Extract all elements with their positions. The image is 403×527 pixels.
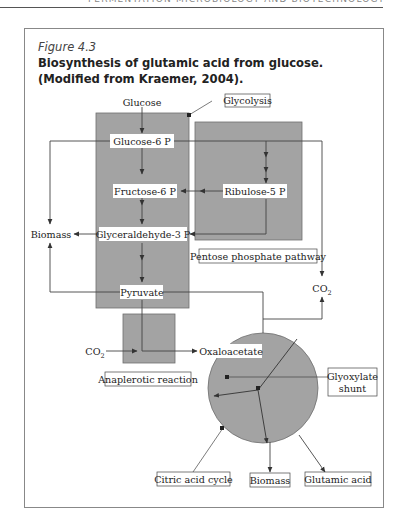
- node-oxaloacetate: Oxaloacetate: [199, 346, 263, 357]
- label-shunt: shunt: [339, 383, 366, 394]
- label-citric-acid-cycle: Citric acid cycle: [154, 474, 233, 485]
- pentose-phosphate-region: [195, 122, 302, 240]
- pathway-diagram: Glucose Glucose-6 P Fructose-6 P Ribulos…: [0, 0, 403, 527]
- node-co2-right: CO2: [312, 283, 331, 297]
- node-pyruvate: Pyruvate: [120, 287, 164, 298]
- anaplerotic-region: [123, 314, 175, 363]
- label-glycolysis: Glycolysis: [223, 95, 272, 106]
- node-biomass-left: Biomass: [31, 229, 72, 240]
- node-ribulose-5p: Ribulose-5 P: [225, 186, 286, 197]
- label-glyoxylate: Glyoxylate: [327, 371, 378, 382]
- node-fructose-6p: Fructose-6 P: [114, 186, 176, 197]
- node-glutamic-acid: Glutamic acid: [304, 474, 371, 485]
- node-glucose-6p: Glucose-6 P: [113, 136, 171, 147]
- label-anaplerotic-reaction: Anaplerotic reaction: [97, 374, 198, 385]
- node-co2-left: CO2: [85, 346, 104, 360]
- node-glyceraldehyde-3p: Glyceraldehyde-3 P: [96, 229, 191, 240]
- node-glucose: Glucose: [123, 97, 162, 108]
- label-pentose-phosphate-pathway: Pentose phosphate pathway: [190, 251, 327, 262]
- node-biomass-bottom: Biomass: [250, 475, 291, 486]
